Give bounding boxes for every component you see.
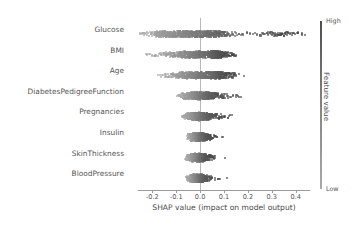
shap-dot [240,96,242,98]
shap-dot [243,75,245,77]
beeswarm-row-bmi [138,45,310,65]
feature-label-diabetespedigreefunction: DiabetesPedigreeFunction [28,86,124,98]
shap-dot [157,55,159,57]
shap-dot [231,76,233,78]
shap-dot [160,76,162,78]
x-tick-label: -0.1 [170,193,183,201]
shap-dot [226,177,228,179]
x-tick-label: 0.2 [243,193,254,201]
feature-label-glucose: Glucose [95,24,124,36]
shap-dot [259,34,261,36]
shap-dot [242,33,244,35]
shap-dot [252,33,254,35]
shap-dot [246,32,248,34]
colorbar-high-label: High [326,17,341,25]
shap-dot [283,35,285,37]
beeswarm-plot-area [138,22,310,190]
shap-dot [296,32,298,34]
shap-summary-plot-figure: GlucoseBMIAgeDiabetesPedigreeFunctionPre… [0,0,363,230]
beeswarm-row-bloodpressure [138,168,310,188]
shap-dot [256,34,258,36]
shap-dot [224,157,226,159]
feature-label-bmi: BMI [110,45,124,57]
shap-dot [234,55,236,57]
shap-dot [214,157,216,159]
beeswarm-row-pregnancies [138,106,310,126]
x-tick-label: 0.0 [195,193,206,201]
beeswarm-row-insulin [138,127,310,147]
shap-dot [165,73,167,75]
beeswarm-row-skinthickness [138,148,310,168]
shap-dot [281,32,283,34]
x-tick-label: -0.2 [146,193,159,201]
shap-dot [223,97,225,99]
shap-dot [286,34,288,36]
shap-dot [238,73,240,75]
shap-dot [219,178,221,180]
feature-label-pregnancies: Pregnancies [79,106,124,118]
feature-label-bloodpressure: BloodPressure [72,168,124,180]
x-axis-title: SHAP value (impact on model output) [138,203,310,212]
beeswarm-row-age [138,65,310,85]
shap-dot [214,179,216,181]
colorbar-title: Feature value [322,72,331,121]
x-tick-label: 0.3 [267,193,278,201]
feature-label-age: Age [110,65,124,77]
feature-label-insulin: Insulin [100,127,124,139]
beeswarm-row-glucose [138,24,310,44]
shap-dot [249,33,251,35]
shap-dot [216,136,218,138]
feature-label-skinthickness: SkinThickness [72,148,124,160]
colorbar-low-label: Low [326,185,339,193]
beeswarm-row-diabetespedigreefunction [138,86,310,106]
x-tick-label: 0.4 [290,193,301,201]
shap-dot [231,114,233,116]
shap-dot [235,75,237,77]
shap-dot [148,35,150,37]
shap-dot [214,177,216,179]
x-tick-label: 0.1 [219,193,230,201]
shap-dot [304,34,306,36]
shap-dot [211,177,213,179]
shap-dot [227,117,229,119]
shap-dot [221,136,223,138]
shap-dot [232,94,234,96]
